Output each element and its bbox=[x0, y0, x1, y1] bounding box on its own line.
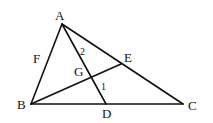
label-point-b: B bbox=[17, 97, 26, 112]
triangle-diagram: A B C D E F G 2 1 bbox=[0, 0, 213, 123]
label-point-c: C bbox=[188, 98, 197, 113]
label-point-e: E bbox=[124, 50, 132, 65]
label-point-d: D bbox=[102, 106, 111, 121]
label-point-g: G bbox=[74, 64, 83, 79]
segment-ad bbox=[62, 24, 106, 104]
label-point-a: A bbox=[55, 8, 65, 23]
label-point-f: F bbox=[33, 51, 40, 66]
label-angle-1: 1 bbox=[101, 81, 106, 92]
label-angle-2: 2 bbox=[80, 46, 85, 57]
